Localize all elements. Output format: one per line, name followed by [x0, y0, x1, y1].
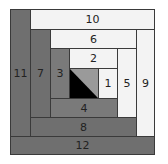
piece-12: 12: [10, 136, 155, 155]
piece-7: 7: [30, 29, 51, 118]
piece-label: 11: [14, 67, 28, 80]
piece-5: 5: [117, 48, 137, 118]
piece-3: 3: [50, 48, 70, 99]
piece-2: 2: [69, 48, 118, 69]
piece-label: 4: [81, 102, 88, 115]
piece-10: 10: [30, 9, 155, 30]
piece-4: 4: [50, 98, 118, 118]
piece-9: 9: [136, 29, 155, 137]
piece-label: 5: [124, 77, 131, 90]
piece-label: 3: [57, 67, 64, 80]
triangle-icon: [70, 69, 98, 98]
piece-6: 6: [50, 29, 137, 49]
center-half-square-triangle: [69, 68, 99, 99]
piece-label: 12: [76, 139, 90, 152]
log-cabin-block: 11 10 12 9 7 6 8 5 3 2 4 1: [10, 9, 155, 155]
piece-label: 1: [105, 77, 112, 90]
piece-label: 8: [80, 121, 87, 134]
piece-label: 10: [86, 13, 100, 26]
piece-8: 8: [30, 117, 137, 137]
piece-11: 11: [10, 9, 31, 137]
piece-label: 7: [37, 67, 44, 80]
piece-1: 1: [98, 68, 118, 99]
piece-label: 9: [142, 77, 149, 90]
piece-label: 2: [90, 52, 97, 65]
piece-label: 6: [90, 33, 97, 46]
